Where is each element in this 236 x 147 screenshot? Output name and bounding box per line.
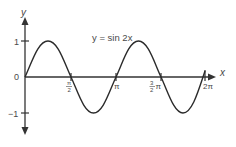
x-axis: x π 2 π 3 2 π 2π [25,67,226,93]
x-tick-label-3pi-over-2: 3 2 π [150,80,162,93]
x-tick-label-pi: π [114,82,120,91]
svg-text:2: 2 [68,87,72,93]
y-axis-up-arrow-icon [22,17,29,25]
x-tick-label-2pi: 2π [203,82,213,91]
svg-text:π: π [156,82,162,91]
svg-text:π: π [67,80,71,86]
svg-text:2: 2 [150,87,154,93]
x-tick-label-pi-over-2: π 2 [66,80,72,93]
chart-canvas: y 1 0 −1 x π 2 π 3 2 [0,0,236,147]
svg-text:3: 3 [150,80,154,86]
y-axis-label: y [20,7,27,18]
function-annotation: y = sin 2x [92,32,133,43]
y-axis: y 1 0 −1 [8,7,29,135]
sine-chart: y 1 0 −1 x π 2 π 3 2 [0,0,236,147]
y-tick-label-0: 0 [14,72,19,82]
y-tick-label-neg1: −1 [8,109,18,119]
y-tick-label-1: 1 [14,37,19,47]
x-axis-label: x [219,67,226,78]
y-axis-down-arrow-icon [22,127,29,135]
x-axis-arrow-icon [208,74,216,81]
